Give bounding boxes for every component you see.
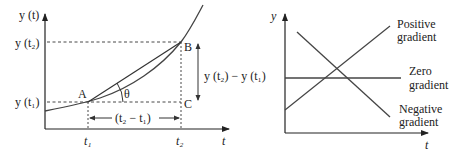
right-diagram: y t Positive gradient Zero gradient Nega… bbox=[270, 9, 449, 152]
angle-theta-arc bbox=[117, 83, 123, 102]
vertical-span-label: y (t₂) − y (t₁) bbox=[204, 69, 266, 83]
y-t1-tick-label: y (t₁) bbox=[15, 95, 40, 109]
positive-label-line1: Positive bbox=[397, 17, 436, 31]
left-x-axis-label: t bbox=[222, 134, 226, 148]
left-diagram: y (t) y (t₂) y (t₁) t₁ t₂ t A B C θ y (t… bbox=[15, 5, 266, 148]
t2-tick-label: t₂ bbox=[176, 134, 184, 148]
horizontal-span-label: (t₂ − t₁) bbox=[115, 111, 151, 125]
point-a-label: A bbox=[78, 87, 87, 101]
positive-label-line2: gradient bbox=[397, 30, 437, 44]
right-x-axis-label: t bbox=[425, 138, 429, 152]
negative-label-line1: Negative bbox=[399, 102, 442, 116]
point-b-label: B bbox=[184, 40, 192, 54]
positive-gradient-line bbox=[285, 26, 390, 110]
negative-gradient-line bbox=[297, 32, 390, 117]
chord-ab bbox=[88, 42, 181, 102]
y-t2-tick-label: y (t₂) bbox=[15, 36, 40, 50]
right-y-axis-label: y bbox=[270, 9, 277, 23]
negative-label-line2: gradient bbox=[399, 115, 439, 129]
angle-theta-label: θ bbox=[124, 87, 130, 101]
t1-tick-label: t₁ bbox=[84, 134, 92, 148]
left-y-axis-label: y (t) bbox=[19, 8, 39, 22]
zero-label-line1: Zero bbox=[409, 64, 432, 78]
point-c-label: C bbox=[184, 97, 192, 111]
zero-label-line2: gradient bbox=[409, 78, 449, 92]
gradient-diagrams: y (t) y (t₂) y (t₁) t₁ t₂ t A B C θ y (t… bbox=[0, 0, 462, 160]
